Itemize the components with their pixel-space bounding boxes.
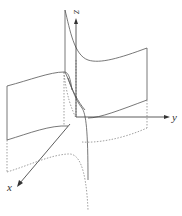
surface-diagram: z y x bbox=[0, 0, 182, 216]
y-arrow-icon bbox=[164, 115, 170, 119]
z-arrow-icon bbox=[74, 18, 78, 24]
x-axis bbox=[20, 124, 70, 183]
y-label: y bbox=[171, 111, 177, 123]
z-label: z bbox=[72, 9, 84, 15]
right-sheet bbox=[65, 10, 147, 142]
x-label: x bbox=[6, 181, 12, 193]
axes: z y x bbox=[6, 9, 177, 193]
